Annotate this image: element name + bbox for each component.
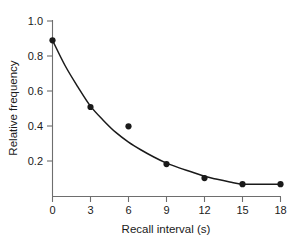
x-tick-label-9: 9 <box>163 204 169 216</box>
recall-frequency-chart: 1.0 0.8 0.6 0.4 0.2 0 3 6 9 12 15 18 R <box>0 0 291 242</box>
y-tick-label-0.8: 0.8 <box>28 50 43 62</box>
y-axis-title: Relative frequency <box>7 60 19 155</box>
y-tick-label-1.0: 1.0 <box>28 15 43 27</box>
x-tick-label-0: 0 <box>49 204 55 216</box>
x-tick-label-12: 12 <box>198 204 210 216</box>
chart-figure: 1.0 0.8 0.6 0.4 0.2 0 3 6 9 12 15 18 R <box>0 0 291 242</box>
x-tick-label-15: 15 <box>236 204 248 216</box>
x-tick-label-18: 18 <box>274 204 286 216</box>
data-point <box>277 181 283 187</box>
y-tick-label-0.6: 0.6 <box>28 85 43 97</box>
data-point <box>239 181 245 187</box>
data-point <box>87 104 93 110</box>
data-point <box>201 175 207 181</box>
x-tick-label-6: 6 <box>125 204 131 216</box>
data-point <box>49 37 55 43</box>
x-tick-label-3: 3 <box>87 204 93 216</box>
data-point <box>125 123 131 129</box>
x-axis-title: Recall interval (s) <box>122 223 211 235</box>
y-tick-label-0.2: 0.2 <box>28 155 43 167</box>
data-point <box>163 161 169 167</box>
y-tick-label-0.4: 0.4 <box>28 120 43 132</box>
